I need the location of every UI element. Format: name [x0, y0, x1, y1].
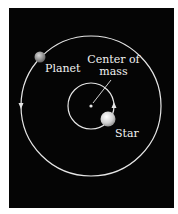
star-label: Star	[115, 127, 140, 140]
center-of-mass-label-line2: mass	[99, 65, 128, 78]
planet-orbit-arrow-icon	[19, 103, 24, 109]
star-body	[101, 112, 116, 127]
orbit-diagram: Planet Center of mass Star	[0, 0, 178, 214]
center-of-mass-dot	[89, 104, 92, 107]
star-orbit-arrow-icon	[112, 102, 117, 108]
planet-label: Planet	[45, 62, 81, 75]
planet-body	[35, 52, 46, 63]
